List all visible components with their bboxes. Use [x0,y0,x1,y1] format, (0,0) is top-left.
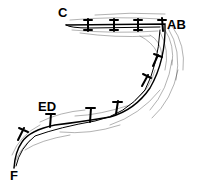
label-ab: AB [167,18,186,31]
incision-line [14,24,165,168]
hatching-curve [12,60,178,168]
label-f: F [10,169,18,182]
label-c: C [58,6,67,19]
label-ed: ED [38,100,56,113]
